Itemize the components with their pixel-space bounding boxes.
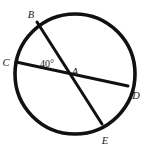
geometry-figure: B C A D E 40° [0,0,150,151]
vertex-label-a: A [71,66,79,77]
angle-label-bac: 40° [40,58,54,69]
vertex-label-b: B [28,9,35,20]
vertex-label-c: C [2,57,10,68]
vertex-label-d: D [131,90,140,101]
vertex-label-e: E [101,135,109,146]
geometry-diagram: B C A D E 40° [0,0,150,151]
